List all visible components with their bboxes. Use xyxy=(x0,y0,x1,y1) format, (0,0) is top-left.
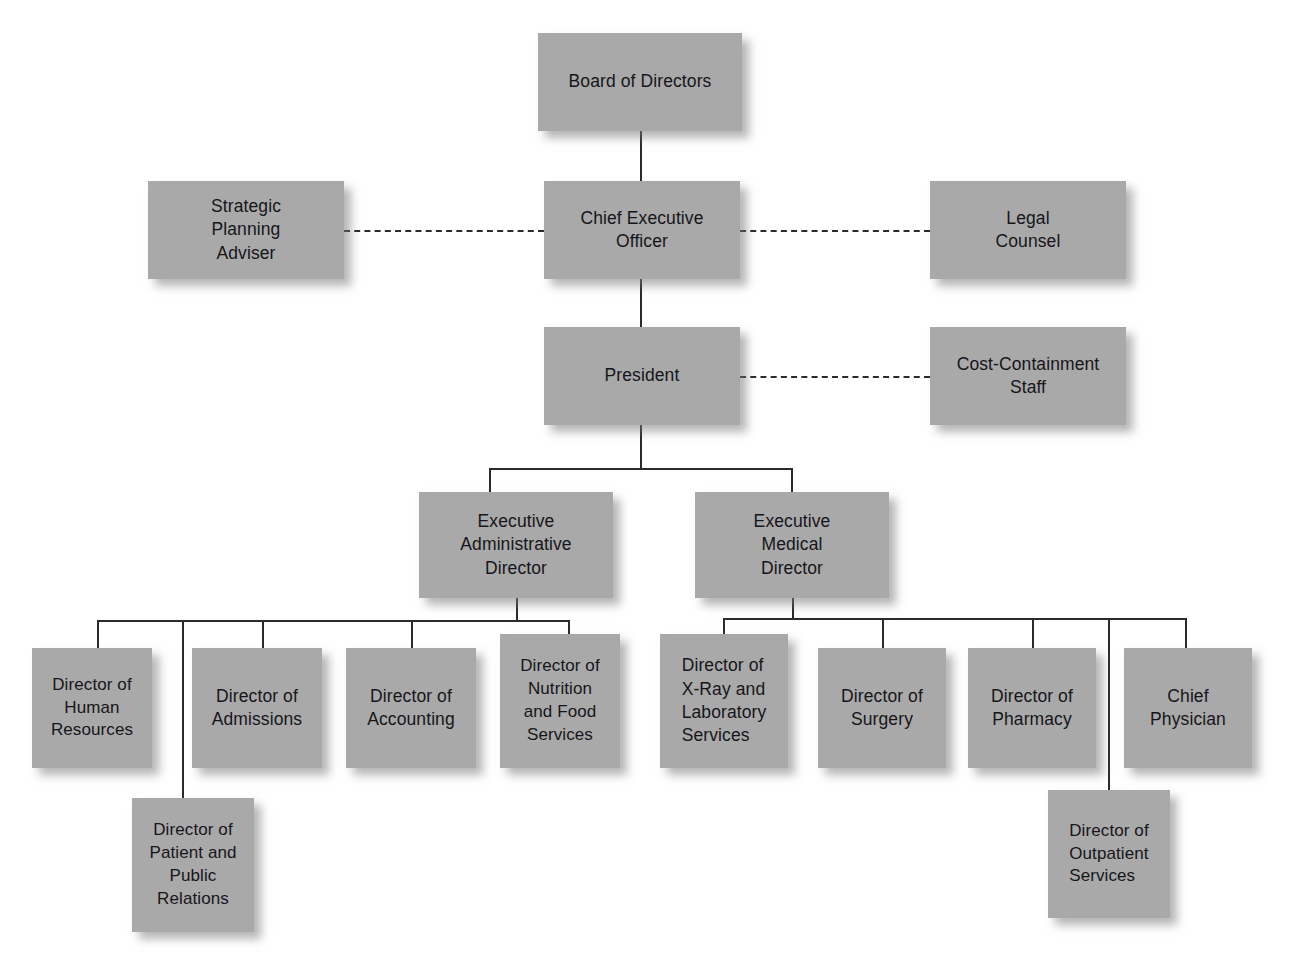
org-node-exec-admin[interactable]: Executive Administrative Director xyxy=(419,492,613,598)
org-node-label-admissions: Director of Admissions xyxy=(206,685,308,732)
connector-ceo-to-strategic-planning-adviser xyxy=(344,230,544,232)
org-node-label-chief-phys: Chief Physician xyxy=(1144,685,1232,732)
org-node-patient-pr[interactable]: Director of Patient and Public Relations xyxy=(132,798,254,932)
connector-drop-patient-pr xyxy=(182,620,184,798)
org-node-label-president: President xyxy=(599,364,686,387)
org-node-label-ceo: Chief Executive Officer xyxy=(574,207,709,254)
org-node-outpatient[interactable]: Director of Outpatient Services xyxy=(1048,790,1170,918)
connector-exec-admin-stem xyxy=(516,598,518,620)
connector-president-stem xyxy=(640,425,642,468)
org-node-cost[interactable]: Cost-Containment Staff xyxy=(930,327,1126,425)
org-node-label-outpatient: Director of Outpatient Services xyxy=(1063,820,1155,888)
connector-ceo-to-president xyxy=(640,279,642,327)
org-node-label-spa: Strategic Planning Adviser xyxy=(205,195,287,265)
org-node-label-pharmacy: Director of Pharmacy xyxy=(985,685,1079,732)
org-node-label-nutrition: Director of Nutrition and Food Services xyxy=(514,655,606,746)
connector-drop-nutrition xyxy=(568,620,570,634)
connector-board-to-ceo xyxy=(640,131,642,181)
org-node-chief-phys[interactable]: Chief Physician xyxy=(1124,648,1252,768)
org-node-label-cost: Cost-Containment Staff xyxy=(951,353,1106,400)
org-node-label-hr: Director of Human Resources xyxy=(45,674,139,742)
connector-exec-med-stem xyxy=(792,598,794,618)
connector-drop-admissions xyxy=(262,620,264,648)
org-node-surgery[interactable]: Director of Surgery xyxy=(818,648,946,768)
org-node-label-board: Board of Directors xyxy=(563,70,718,93)
connector-drop-outpatient xyxy=(1108,618,1110,790)
org-node-label-exec-med: Executive Medical Director xyxy=(748,510,837,580)
connector-president-to-cost-containment xyxy=(740,376,930,378)
connector-drop-chief-physician xyxy=(1185,618,1187,648)
connector-med-bus xyxy=(723,618,1185,620)
connector-drop-pharmacy xyxy=(1032,618,1034,648)
org-node-label-exec-admin: Executive Administrative Director xyxy=(454,510,577,580)
connector-bus-to-exec-med xyxy=(791,468,793,492)
org-node-spa[interactable]: Strategic Planning Adviser xyxy=(148,181,344,279)
connector-drop-accounting xyxy=(411,620,413,648)
org-node-president[interactable]: President xyxy=(544,327,740,425)
org-node-legal[interactable]: Legal Counsel xyxy=(930,181,1126,279)
org-node-pharmacy[interactable]: Director of Pharmacy xyxy=(968,648,1096,768)
org-node-label-legal: Legal Counsel xyxy=(990,207,1067,254)
org-node-label-accounting: Director of Accounting xyxy=(361,685,461,732)
org-node-label-xray: Director of X-Ray and Laboratory Service… xyxy=(676,654,773,748)
org-chart-canvas: Board of DirectorsChief Executive Office… xyxy=(0,0,1296,956)
org-node-accounting[interactable]: Director of Accounting xyxy=(346,648,476,768)
connector-admin-bus xyxy=(97,620,568,622)
connector-ceo-to-legal-counsel xyxy=(740,230,930,232)
connector-bus-to-exec-admin xyxy=(489,468,491,492)
org-node-admissions[interactable]: Director of Admissions xyxy=(192,648,322,768)
org-node-label-surgery: Director of Surgery xyxy=(835,685,929,732)
connector-president-bus xyxy=(489,468,792,470)
figure-caption xyxy=(0,0,1296,6)
connector-drop-hr xyxy=(97,620,99,648)
org-node-hr[interactable]: Director of Human Resources xyxy=(32,648,152,768)
org-node-ceo[interactable]: Chief Executive Officer xyxy=(544,181,740,279)
org-node-label-patient-pr: Director of Patient and Public Relations xyxy=(143,819,242,910)
org-node-nutrition[interactable]: Director of Nutrition and Food Services xyxy=(500,634,620,768)
org-node-exec-med[interactable]: Executive Medical Director xyxy=(695,492,889,598)
org-node-xray[interactable]: Director of X-Ray and Laboratory Service… xyxy=(660,634,788,768)
org-node-board[interactable]: Board of Directors xyxy=(538,33,742,131)
connector-drop-surgery xyxy=(882,618,884,648)
connector-drop-xray xyxy=(723,618,725,634)
